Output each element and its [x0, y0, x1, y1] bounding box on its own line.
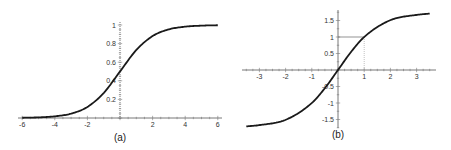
- y-tick-label: 1.5: [324, 17, 334, 24]
- x-tick-label: -3: [256, 73, 262, 80]
- x-tick-label: 4: [183, 121, 187, 128]
- y-tick-label: 1: [330, 34, 334, 41]
- y-tick-label: 1: [112, 22, 116, 29]
- x-tick-label: -6: [19, 121, 25, 128]
- x-tick-label: 3: [415, 73, 419, 80]
- x-tick-label: 1: [362, 73, 366, 80]
- y-tick-label: 0.5: [324, 50, 334, 57]
- x-tick-label: 2: [151, 121, 155, 128]
- chart-a-tick-labels: -6-4-22460.20.40.60.81: [19, 22, 220, 129]
- figure: -6-4-22460.20.40.60.81 (a) -3-2-11231.51…: [0, 0, 451, 150]
- x-tick-label: -4: [52, 121, 58, 128]
- y-tick-label: -1: [328, 100, 334, 107]
- chart-b-caption: (b): [332, 129, 344, 140]
- y-tick-label: -1.5: [322, 116, 334, 123]
- x-tick-label: -2: [282, 73, 288, 80]
- x-tick-label: -2: [84, 121, 90, 128]
- chart-a-sigmoid: -6-4-22460.20.40.60.81 (a): [18, 22, 222, 144]
- y-tick-label: 0.8: [106, 40, 116, 47]
- x-tick-label: 6: [216, 121, 220, 128]
- chart-a-caption: (a): [114, 132, 126, 143]
- x-tick-label: 2: [388, 73, 392, 80]
- chart-b-saturating-curve: -3-2-11231.510.5-0.5-1-1.5 (b): [242, 10, 436, 140]
- x-tick-label: -1: [309, 73, 315, 80]
- y-tick-label: 0.6: [106, 59, 116, 66]
- y-tick-label: 0.2: [106, 96, 116, 103]
